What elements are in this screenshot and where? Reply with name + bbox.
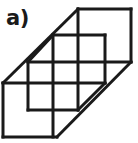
inner-diagonal-lower — [78, 83, 105, 110]
inner-diagonal-upper — [28, 35, 53, 62]
figure-panel: a) — [0, 0, 138, 143]
outline-diagonal-lower-right — [57, 62, 131, 137]
panel-label: a) — [6, 8, 29, 29]
